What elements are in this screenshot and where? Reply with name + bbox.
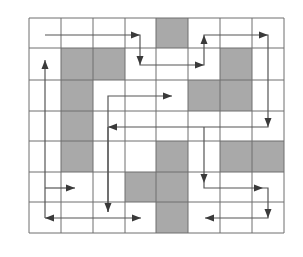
shaded-cell <box>93 48 125 80</box>
shaded-cell <box>220 48 252 80</box>
shaded-cell <box>220 80 252 111</box>
shaded-cell <box>156 172 188 202</box>
grid-path-diagram <box>0 0 303 257</box>
shaded-cell <box>156 141 188 172</box>
shaded-cell <box>220 141 252 172</box>
shaded-cell <box>156 18 188 48</box>
shaded-cell <box>61 48 93 80</box>
shaded-cell <box>61 141 93 172</box>
shaded-cell <box>188 80 220 111</box>
shaded-cell <box>61 80 93 111</box>
shaded-cell <box>61 111 93 141</box>
shaded-cell <box>156 202 188 233</box>
shaded-cell <box>125 172 156 202</box>
shaded-cell <box>252 141 284 172</box>
